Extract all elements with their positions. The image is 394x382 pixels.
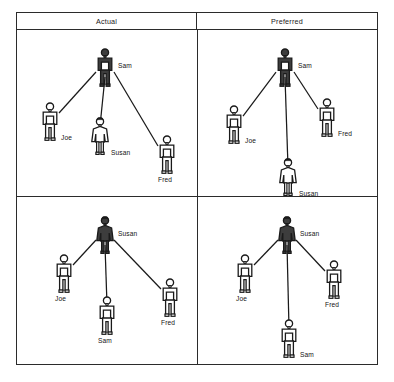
person-label: Susan xyxy=(300,230,319,237)
connector-line xyxy=(296,240,325,271)
male-person-icon xyxy=(278,319,300,359)
male-person-icon-highlighted xyxy=(94,48,116,88)
connector-line xyxy=(114,240,161,289)
male-person-icon xyxy=(96,296,118,336)
person-label: Fred xyxy=(338,130,352,137)
male-person-icon xyxy=(223,105,245,145)
female-person-icon-highlighted xyxy=(276,216,298,256)
male-person-icon xyxy=(53,254,75,294)
male-person-icon xyxy=(156,135,178,175)
male-person-icon xyxy=(323,260,345,300)
female-person-icon-highlighted xyxy=(94,216,116,256)
connector-line xyxy=(254,240,278,265)
person-label: Joe xyxy=(61,134,72,141)
female-person-icon xyxy=(277,158,299,198)
connector-line xyxy=(114,72,158,146)
panel-actual-susan: Susan Joe Sam Fred xyxy=(17,196,197,364)
person-label: Sam xyxy=(300,351,314,358)
connector-line xyxy=(73,240,96,265)
male-person-icon xyxy=(39,102,61,142)
person-label: Fred xyxy=(158,176,172,183)
column-header-actual: Actual xyxy=(17,13,197,29)
person-label: Fred xyxy=(325,301,339,308)
connector-line xyxy=(285,77,288,167)
panel-actual-sam: Sam Joe Susan Fred xyxy=(17,30,197,196)
connector-line xyxy=(294,72,318,109)
person-label: Sam xyxy=(98,337,112,344)
connector-line xyxy=(59,72,96,113)
connector-line xyxy=(243,72,276,116)
panel-preferred-sam: Sam Joe Fred Susan xyxy=(197,30,377,196)
person-label: Sam xyxy=(118,62,132,69)
diagram-frame: Actual Preferred Sam Joe Susan Fred Sam … xyxy=(16,12,378,365)
male-person-icon xyxy=(316,98,338,138)
column-header-row: Actual Preferred xyxy=(17,13,377,30)
person-label: Sam xyxy=(298,62,312,69)
person-label: Joe xyxy=(245,137,256,144)
panel-preferred-susan: Susan Joe Fred Sam xyxy=(197,196,377,364)
person-label: Joe xyxy=(236,295,247,302)
sociogram-diagram: Actual Preferred Sam Joe Susan Fred Sam … xyxy=(0,0,394,382)
person-label: Susan xyxy=(118,230,137,237)
person-label: Fred xyxy=(161,319,175,326)
person-label: Joe xyxy=(55,295,66,302)
male-person-icon xyxy=(159,278,181,318)
column-header-preferred: Preferred xyxy=(197,13,377,29)
female-person-icon xyxy=(89,117,111,157)
male-person-icon xyxy=(234,254,256,294)
person-label: Susan xyxy=(111,149,130,156)
connector-line xyxy=(287,245,289,328)
male-person-icon-highlighted xyxy=(274,48,296,88)
